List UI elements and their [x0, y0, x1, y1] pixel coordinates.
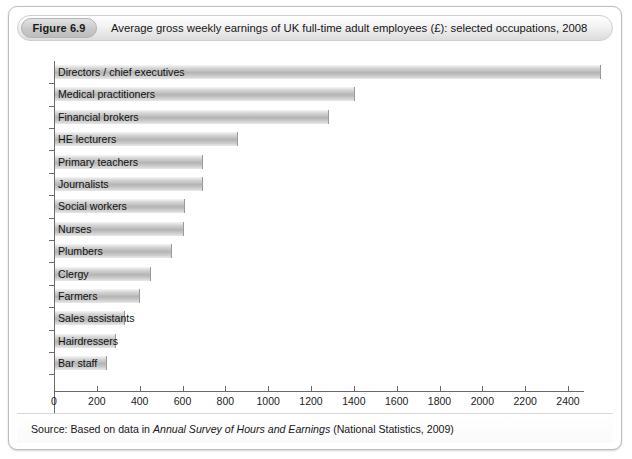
y-tick-mark	[49, 83, 54, 84]
y-tick-mark	[49, 307, 54, 308]
bar[interactable]	[55, 334, 116, 348]
y-tick-mark	[49, 374, 54, 375]
y-tick-mark	[49, 150, 54, 151]
bar[interactable]	[55, 87, 355, 101]
chart-plot-area: 0200400600800100012001400160018002000220…	[9, 43, 621, 415]
y-tick-mark	[49, 262, 54, 263]
x-tick-label: 0	[51, 395, 57, 407]
y-tick-mark	[49, 218, 54, 219]
source-publication-title: Annual Survey of Hours and Earnings	[153, 423, 330, 435]
bar[interactable]	[55, 155, 203, 169]
x-tick-label: 200	[88, 395, 106, 407]
y-tick-mark	[49, 106, 54, 107]
bar[interactable]	[55, 311, 125, 325]
bar[interactable]	[55, 356, 107, 370]
bar[interactable]	[55, 132, 238, 146]
source-suffix: (National Statistics, 2009)	[330, 423, 454, 435]
source-prefix: Source: Based on data in	[31, 423, 153, 435]
bar[interactable]	[55, 289, 140, 303]
figure-footer: Source: Based on data in Annual Survey o…	[17, 413, 613, 443]
bar-series: Directors / chief executivesMedical prac…	[55, 65, 615, 391]
y-tick-mark	[49, 128, 54, 129]
figure-number-badge: Figure 6.9	[21, 18, 97, 38]
bar[interactable]	[55, 199, 185, 213]
bar[interactable]	[55, 222, 184, 236]
y-tick-mark	[49, 352, 54, 353]
x-axis-line	[54, 391, 584, 392]
x-tick-label: 1800	[428, 395, 451, 407]
x-tick-label: 400	[131, 395, 149, 407]
y-tick-mark	[49, 195, 54, 196]
figure-title: Average gross weekly earnings of UK full…	[111, 22, 587, 34]
x-tick-label: 2200	[513, 395, 536, 407]
x-tick-label: 1400	[342, 395, 365, 407]
x-tick-label: 1600	[385, 395, 408, 407]
source-note: Source: Based on data in Annual Survey o…	[31, 423, 454, 435]
y-tick-mark	[49, 330, 54, 331]
figure-frame: Figure 6.9 Average gross weekly earnings…	[8, 6, 622, 450]
bar[interactable]	[55, 177, 203, 191]
y-tick-mark	[49, 240, 54, 241]
figure-header: Figure 6.9 Average gross weekly earnings…	[17, 15, 613, 41]
bar[interactable]	[55, 244, 172, 258]
x-tick-label: 600	[174, 395, 192, 407]
bar[interactable]	[55, 110, 329, 124]
bar[interactable]	[55, 267, 151, 281]
x-tick-label: 2000	[471, 395, 494, 407]
x-tick-label: 800	[217, 395, 235, 407]
x-tick-label: 1000	[256, 395, 279, 407]
bar[interactable]	[55, 65, 601, 79]
x-tick-label: 2400	[556, 395, 579, 407]
y-tick-mark	[49, 285, 54, 286]
x-tick-label: 1200	[299, 395, 322, 407]
y-tick-mark	[49, 173, 54, 174]
